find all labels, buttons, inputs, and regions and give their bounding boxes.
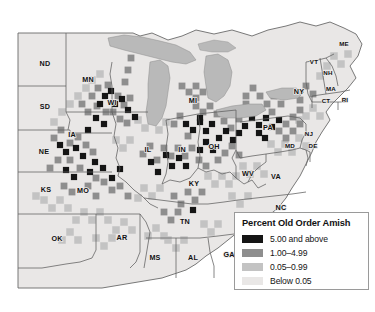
- county-cell: [197, 147, 203, 153]
- state-label-ky: KY: [189, 179, 199, 188]
- county-cell: [93, 175, 100, 182]
- county-cell: [190, 127, 196, 133]
- county-cell: [262, 135, 268, 141]
- county-cell: [309, 104, 317, 112]
- legend-swatch: [242, 277, 263, 285]
- state-label-wi: WI: [107, 98, 116, 107]
- state-label-ar: AR: [117, 233, 128, 242]
- county-cell: [216, 135, 222, 141]
- county-cell: [242, 123, 248, 129]
- state-label-mn: MN: [82, 75, 94, 84]
- county-cell: [51, 135, 58, 142]
- county-cell: [32, 192, 40, 200]
- county-cell: [67, 140, 74, 147]
- state-label-ny: NY: [294, 87, 304, 96]
- county-cell: [169, 163, 175, 169]
- county-cell: [310, 91, 317, 98]
- county-cell: [200, 220, 208, 228]
- county-cell: [64, 204, 72, 212]
- county-cell: [57, 142, 63, 148]
- county-cell: [209, 121, 215, 127]
- county-cell: [283, 121, 290, 128]
- county-cell: [260, 170, 268, 178]
- state-label-ri: RI: [342, 96, 349, 103]
- county-cell: [90, 149, 97, 156]
- county-cell: [177, 113, 184, 120]
- county-cell: [297, 107, 304, 114]
- county-cell: [178, 201, 185, 208]
- state-label-in: IN: [178, 145, 186, 154]
- county-cell: [236, 200, 244, 208]
- county-cell: [283, 135, 290, 142]
- county-cell: [236, 152, 243, 159]
- county-cell: [93, 115, 99, 121]
- county-cell: [105, 82, 112, 89]
- county-cell: [96, 70, 104, 78]
- county-cell: [74, 92, 82, 100]
- county-cell: [203, 128, 209, 134]
- county-cell: [140, 184, 148, 192]
- county-cell: [222, 150, 229, 157]
- county-cell: [128, 226, 136, 234]
- county-cell: [175, 209, 182, 216]
- state-label-wv: WV: [242, 169, 254, 178]
- county-cell: [88, 216, 96, 224]
- county-cell: [221, 118, 228, 125]
- county-cell: [179, 83, 186, 90]
- county-cell: [119, 144, 127, 152]
- county-cell: [92, 159, 98, 165]
- county-cell: [148, 159, 154, 165]
- state-label-ma: MA: [326, 85, 336, 92]
- county-cell: [257, 93, 264, 100]
- county-cell: [171, 121, 178, 128]
- county-cell: [104, 216, 112, 224]
- county-cell: [276, 128, 283, 135]
- state-label-de: DE: [309, 142, 318, 149]
- county-cell: [80, 208, 88, 216]
- county-cell: [163, 152, 169, 158]
- legend-swatch: [242, 263, 263, 271]
- state-label-ga: GA: [223, 250, 234, 259]
- county-cell: [168, 217, 175, 224]
- county-cell: [263, 115, 269, 121]
- county-cell: [100, 165, 106, 171]
- county-cell: [55, 157, 62, 164]
- county-cell: [127, 95, 134, 102]
- state-label-ms: MS: [149, 253, 160, 262]
- county-cell: [269, 109, 276, 116]
- state-label-nd: ND: [40, 59, 51, 68]
- county-cell: [152, 224, 160, 232]
- county-cell: [215, 157, 222, 164]
- county-cell: [337, 60, 345, 68]
- county-cell: [144, 232, 152, 240]
- county-cell: [155, 169, 161, 175]
- county-cell: [83, 142, 90, 149]
- state-label-nh: NH: [323, 69, 333, 76]
- legend-rows: 5.00 and above1.00–4.990.05–0.99Below 0.…: [242, 232, 361, 288]
- county-cell: [48, 204, 56, 212]
- map-legend: Percent Old Order Amish 5.00 and above1.…: [234, 212, 369, 290]
- county-cell: [72, 216, 80, 224]
- county-cell: [67, 157, 74, 164]
- county-cell: [200, 109, 207, 116]
- legend-label: 0.05–0.99: [270, 262, 307, 272]
- county-cell: [125, 67, 132, 74]
- state-label-va: VA: [271, 172, 281, 181]
- state-label-ct: CT: [322, 97, 331, 104]
- county-cell: [71, 174, 77, 180]
- county-cell: [192, 197, 199, 204]
- county-cell: [290, 128, 297, 135]
- county-cell: [250, 85, 257, 92]
- county-cell: [183, 121, 189, 127]
- county-cell: [190, 207, 196, 213]
- state-label-me: ME: [339, 40, 349, 47]
- county-cell: [236, 130, 242, 136]
- county-cell: [225, 180, 233, 188]
- state-label-md: MD: [285, 142, 295, 149]
- state-label-al: AL: [188, 253, 198, 262]
- county-cell: [186, 89, 193, 96]
- county-cell: [197, 115, 203, 121]
- county-cell: [214, 220, 222, 228]
- county-cell: [155, 126, 163, 134]
- county-cell: [211, 180, 219, 188]
